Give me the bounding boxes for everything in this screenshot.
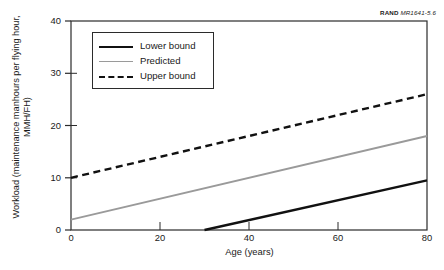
legend-swatch-predicted-icon: [99, 55, 133, 67]
y-axis-title: Workload (maintenance manhours per flyin…: [11, 2, 33, 232]
y-tick-label-30: 30: [35, 68, 61, 78]
legend-swatch-lower-bound-icon: [99, 40, 133, 52]
chart-legend: Lower bound Predicted Upper bound: [92, 32, 214, 89]
legend-swatch-upper-bound-icon: [99, 70, 133, 82]
x-tick-label-40: 40: [234, 233, 264, 243]
legend-item-upper-bound: Upper bound: [99, 68, 207, 83]
y-tick-label-40: 40: [35, 16, 61, 26]
x-tick-label-60: 60: [323, 233, 353, 243]
figure-container: RAND MR1641-5.6: [0, 0, 444, 270]
x-tick-label-0: 0: [56, 233, 86, 243]
legend-item-lower-bound: Lower bound: [99, 38, 207, 53]
y-tick-label-20: 20: [35, 121, 61, 131]
plot-area: [0, 0, 444, 270]
x-axis-title: Age (years): [71, 246, 428, 257]
y-tick-label-10: 10: [35, 173, 61, 183]
legend-item-predicted: Predicted: [99, 53, 207, 68]
legend-label-upper-bound: Upper bound: [140, 70, 195, 81]
x-tick-label-20: 20: [145, 233, 175, 243]
legend-label-predicted: Predicted: [140, 55, 181, 66]
x-tick-label-80: 80: [412, 233, 442, 243]
y-axis-ticks: [65, 21, 71, 230]
legend-label-lower-bound: Lower bound: [140, 40, 195, 51]
